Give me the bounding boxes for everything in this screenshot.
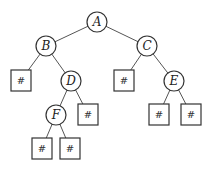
node-label: B	[41, 39, 51, 53]
node-label: C	[142, 39, 151, 53]
null-label: #	[187, 109, 195, 120]
node-d: D	[61, 71, 81, 91]
node-label: F	[51, 108, 61, 122]
null-label: #	[38, 143, 46, 154]
null-label: #	[120, 75, 128, 86]
node-label: E	[169, 74, 179, 88]
null-node-d-right: #	[78, 104, 98, 125]
null-node-e-right: #	[181, 104, 201, 125]
null-node-c-left: #	[114, 70, 134, 91]
null-node-e-left: #	[149, 104, 169, 125]
null-label: #	[155, 109, 163, 120]
null-label: #	[84, 109, 92, 120]
node-b: B	[36, 36, 56, 56]
null-label: #	[66, 143, 74, 154]
node-f: F	[46, 105, 66, 125]
node-label: D	[65, 74, 76, 88]
node-c: C	[137, 36, 157, 56]
null-node-f-right: #	[60, 138, 80, 159]
node-a: A	[87, 12, 107, 32]
null-node-b-left: #	[11, 70, 31, 91]
null-node-f-left: #	[32, 138, 52, 159]
null-label: #	[17, 75, 25, 86]
binary-tree-diagram: A B C D E F # # # # # #	[0, 0, 211, 170]
node-label: A	[92, 15, 102, 29]
node-e: E	[164, 71, 184, 91]
